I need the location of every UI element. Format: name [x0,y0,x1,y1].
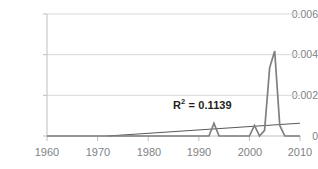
trendline [108,123,300,136]
axis-ticks [43,14,300,141]
r-squared-annotation: R2 = 0.1139 [173,99,232,111]
gridlines [47,14,300,136]
plot-area [0,0,318,169]
chart-container: 0.006 0.004 0.002 0 1960 1970 1980 1990 … [0,0,318,169]
data-series-line [47,51,300,136]
r2-value: = 0.1139 [185,99,231,111]
r2-prefix: R [173,99,181,111]
